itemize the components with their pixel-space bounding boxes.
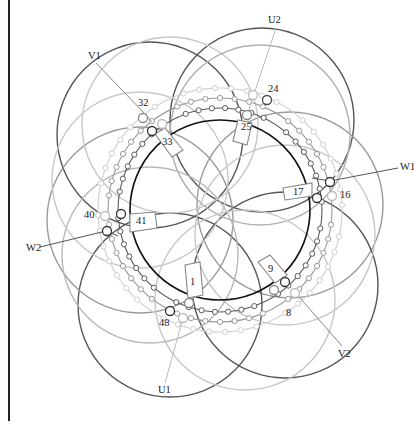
winding-bead [109,178,114,183]
winding-bead [120,176,125,181]
winding-bead [117,189,122,194]
winding-bead [106,193,111,198]
slot-number-24: 24 [268,83,279,94]
node-41 [117,210,126,219]
winding-bead [321,142,326,147]
terminal-label-w1: W1 [400,161,414,172]
winding-bead [303,263,308,268]
winding-bead [212,309,217,314]
slot-number-33: 33 [162,136,173,147]
winding-bead [114,273,119,278]
winding-bead [326,264,331,269]
node-u2 [249,91,258,100]
winding-bead [332,249,337,254]
winding-bead [222,329,227,334]
winding-bead [310,251,315,256]
node-40 [101,212,110,221]
node-16b [328,192,337,201]
winding-bead [301,149,306,154]
terminal-label-v2: V2 [338,348,351,359]
node-w2 [103,227,112,236]
slot-number-40: 40 [84,209,95,220]
winding-bead [260,104,265,109]
winding-bead [152,104,157,109]
winding-bead [226,309,231,314]
winding-bead [228,86,233,91]
winding-bead [175,322,180,327]
winding-bead [140,141,145,146]
winding-bead [118,137,123,142]
winding-bead [129,139,134,144]
slot-number-1: 1 [190,276,195,287]
winding-bead [246,316,251,321]
winding-bead [121,242,126,247]
winding-bead [321,250,326,255]
node-1 [185,299,194,308]
winding-bead [314,173,319,178]
winding-bead [114,250,119,255]
winding-bead [118,229,123,234]
slot-number-8: 8 [286,307,291,318]
winding-bead [199,308,204,313]
node-32 [139,114,148,123]
winding-bead [183,111,188,116]
winding-bead [188,99,193,104]
winding-bead [328,222,333,227]
winding-bead [124,286,129,291]
winding-bead [174,300,179,305]
winding-bead [261,115,266,120]
winding-bead [203,96,208,101]
node-48 [166,307,175,316]
winding-bead [260,311,265,316]
winding-bead [101,244,106,249]
winding-bead [232,96,237,101]
winding-bead [239,307,244,312]
winding-bead [134,265,139,270]
winding-bead [328,156,333,161]
winding-bead [223,106,228,111]
winding-bead [295,274,300,279]
node-33b [158,120,167,129]
winding-bead [286,119,291,124]
winding-bead [296,301,301,306]
winding-bead [149,296,154,301]
winding-bead [181,91,186,96]
node-u1 [179,314,188,323]
coil-petal-bottom-light [155,210,335,390]
winding-bead [191,326,196,331]
winding-bead [339,202,344,207]
winding-bead [206,329,211,334]
node-17 [313,194,322,203]
winding-bead [125,164,130,169]
winding-bead [175,104,180,109]
winding-bead [314,151,319,156]
winding-bead [315,239,320,244]
winding-bead [326,236,331,241]
winding-bead [129,276,134,281]
winding-bead [308,161,313,166]
winding-bead [307,290,312,295]
winding-bead [196,108,201,113]
node-33 [148,127,157,136]
node-v2 [291,289,300,298]
winding-bead [127,254,132,259]
node-16 [326,178,335,187]
winding-bead [203,318,208,323]
node-24 [263,96,272,105]
winding-bead [120,151,125,156]
winding-diagram: U1 U2 V1 V2 W1 W2 1 8 9 16 17 24 25 32 3… [0,0,414,431]
winding-bead [297,128,302,133]
winding-bead [120,263,125,268]
winding-bead [300,118,305,123]
slot-number-17: 17 [293,186,304,197]
winding-bead [334,171,339,176]
winding-bead [284,130,289,135]
node-8 [281,278,290,287]
winding-bead [151,285,156,290]
slot-number-9: 9 [268,263,273,274]
node-9 [270,286,279,295]
winding-bead [306,276,311,281]
terminal-label-w2: W2 [26,242,41,253]
terminal-label-v1: V1 [88,50,101,61]
winding-bead [317,278,322,283]
